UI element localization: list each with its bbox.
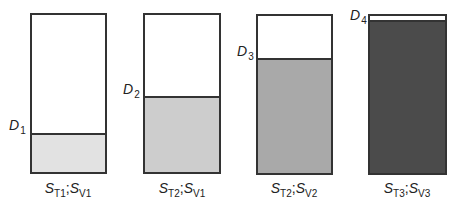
tank-1-fill (32, 133, 105, 172)
level-label-main: D (9, 117, 19, 133)
caption-s1: S (159, 180, 168, 196)
tank-caption-1: ST1;SV1 (18, 181, 118, 199)
tank-1 (30, 13, 107, 174)
level-label-sub: 4 (361, 15, 367, 26)
tank-2 (143, 13, 221, 174)
tank-2-fill (145, 96, 219, 172)
tank-4-fill (370, 20, 445, 173)
level-label-3: D3 (237, 44, 254, 62)
level-label-4: D4 (350, 8, 367, 26)
caption-s2-sub: V2 (305, 188, 317, 199)
level-label-2: D2 (123, 82, 140, 100)
tank-caption-2: ST2;SV1 (132, 181, 232, 199)
caption-s1: S (384, 180, 393, 196)
tank-3-fill (258, 58, 331, 173)
tank-caption-4: ST3;SV3 (357, 181, 457, 199)
level-label-main: D (123, 81, 133, 97)
level-label-main: D (237, 43, 247, 59)
level-label-sub: 3 (248, 51, 254, 62)
caption-s1: S (271, 180, 280, 196)
caption-s1-sub: T2 (168, 188, 180, 199)
caption-s1-sub: T3 (393, 188, 405, 199)
level-label-sub: 2 (134, 89, 140, 100)
caption-s2: S (70, 180, 79, 196)
tank-4 (368, 14, 447, 175)
caption-s1-sub: T1 (54, 188, 66, 199)
level-label-1: D1 (9, 118, 26, 136)
level-label-main: D (350, 7, 360, 23)
caption-s2: S (184, 180, 193, 196)
caption-s1: S (45, 180, 54, 196)
caption-s2-sub: V1 (193, 188, 205, 199)
tank-caption-3: ST2;SV2 (244, 181, 344, 199)
level-label-sub: 1 (20, 125, 26, 136)
caption-s2-sub: V1 (79, 188, 91, 199)
caption-s2: S (409, 180, 418, 196)
tank-3 (256, 14, 333, 175)
caption-s2-sub: V3 (418, 188, 430, 199)
caption-s1-sub: T2 (280, 188, 292, 199)
caption-s2: S (296, 180, 305, 196)
